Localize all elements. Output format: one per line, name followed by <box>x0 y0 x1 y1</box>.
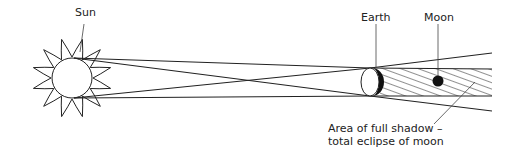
sun-disc <box>52 58 92 98</box>
moon-label: Moon <box>424 11 454 24</box>
umbra-label-line1: Area of full shadow – <box>328 122 443 135</box>
earth-label: Earth <box>361 11 391 24</box>
moon <box>433 76 444 87</box>
earth <box>361 68 384 96</box>
umbra-label-line2: total eclipse of moon <box>328 135 444 148</box>
lunar-eclipse-diagram: Sun Earth Moon Area of full shadow – tot… <box>0 0 516 151</box>
sun-label: Sun <box>75 6 96 19</box>
umbra-hatching <box>370 68 492 96</box>
